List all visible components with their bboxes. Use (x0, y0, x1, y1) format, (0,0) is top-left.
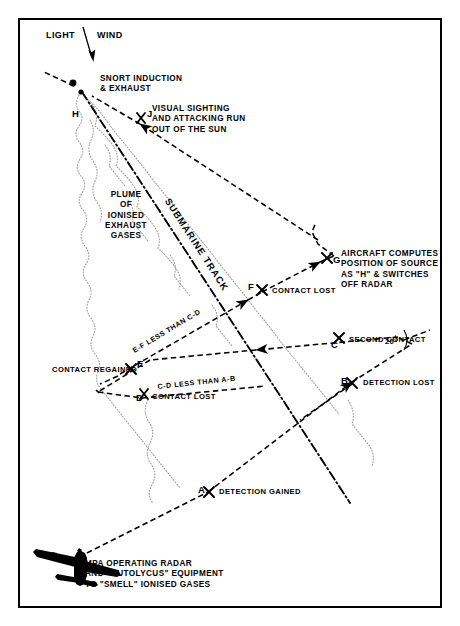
diagram-artwork (0, 0, 460, 626)
event-B-detection-lost: DETECTION LOST (363, 378, 435, 387)
point-label-J: J (147, 108, 152, 119)
marker-A (204, 487, 214, 497)
event-D-contact-lost: CONTACT LOST (152, 392, 216, 401)
point-label-G: G (333, 254, 340, 265)
point-label-H: H (72, 108, 79, 119)
event-A-detection-gained: DETECTION GAINED (219, 487, 301, 496)
visual-sighting-label: VISUAL SIGHTING AND ATTACKING RUN OUT OF… (152, 104, 246, 135)
snort-induction-label: SNORT INDUCTION & EXHAUST (100, 74, 182, 95)
plume-label: PLUME OF IONISED EXHAUST GASES (92, 190, 160, 241)
point-label-E: E (137, 358, 143, 369)
aircraft-computes-label: AIRCRAFT COMPUTES POSITION OF SOURCE AS … (341, 249, 438, 290)
snort-source-dots (70, 80, 84, 95)
event-F-contact-lost: CONTACT LOST (272, 286, 336, 295)
point-label-D: D (136, 392, 143, 403)
marker-B (347, 378, 357, 388)
ionised-plume-outline (76, 95, 373, 503)
mpa-caption: MPA OPERATING RADAR AND "AUTOLYCUS" EQUI… (85, 559, 224, 590)
point-label-A: A (198, 484, 205, 495)
event-C-second-contact: SECOND CONTACT (349, 335, 426, 344)
wind-arrow-icon (83, 27, 95, 62)
point-label-B: B (341, 375, 348, 386)
wind-label-light: LIGHT (46, 30, 75, 41)
point-label-C: C (331, 339, 338, 350)
event-E-contact-regained: CONTACT REGAINED (52, 365, 137, 374)
marker-J (137, 113, 145, 123)
diagram-canvas: LIGHT WIND SNORT INDUCTION & EXHAUST VIS… (0, 0, 460, 626)
point-label-F: F (248, 281, 254, 292)
aircraft-track-line (44, 72, 430, 557)
wind-label-wind: WIND (97, 30, 123, 41)
waypoint-markers (126, 113, 357, 497)
submarine-track-line (82, 92, 350, 503)
